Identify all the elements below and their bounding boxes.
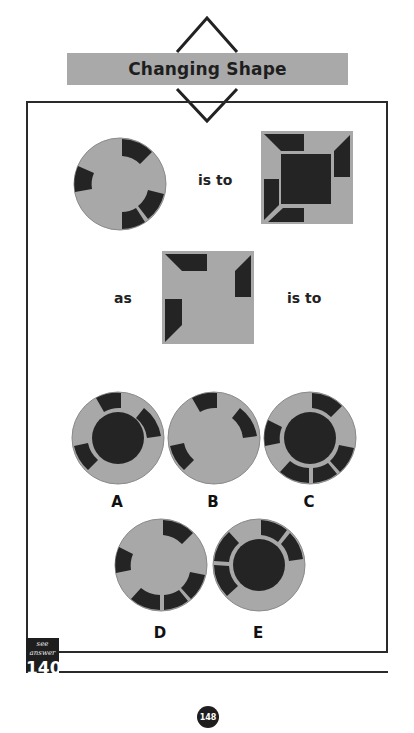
figure-1-circle [72, 136, 168, 232]
option-b-label: B [203, 493, 223, 511]
see-answer-caption: see answer [26, 640, 59, 658]
option-a-label: A [107, 493, 127, 511]
answer-number: 140 [26, 658, 59, 678]
bottom-rule [59, 671, 388, 673]
figure-2-square [261, 131, 353, 224]
connector-is-to-1: is to [198, 172, 232, 188]
option-d-figure[interactable] [113, 517, 209, 613]
see-answer-badge: see answer 140 [26, 638, 59, 673]
option-c-figure[interactable] [262, 390, 358, 486]
figure-3-square [162, 251, 254, 344]
option-e-label: E [248, 624, 268, 642]
option-a-figure[interactable] [70, 390, 166, 486]
option-d-label: D [150, 624, 170, 642]
connector-is-to-2: is to [287, 290, 321, 306]
chevron-up-icon [175, 14, 239, 54]
option-b-figure[interactable] [166, 390, 262, 486]
page-title: Changing Shape [128, 59, 287, 79]
option-e-figure[interactable] [211, 517, 307, 613]
title-banner: Changing Shape [67, 53, 348, 85]
page-number: 148 [197, 706, 219, 728]
connector-as: as [114, 290, 132, 306]
option-c-label: C [299, 493, 319, 511]
